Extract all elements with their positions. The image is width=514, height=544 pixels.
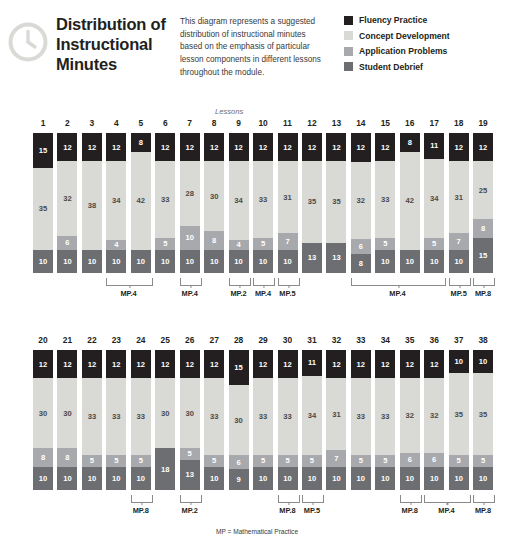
lesson-bar[interactable]: 584210 xyxy=(131,118,151,273)
bar-segment-debrief: 8 xyxy=(351,254,371,273)
bar-stack: 1230810 xyxy=(33,350,53,490)
bar-segment-application: 5 xyxy=(155,238,175,250)
lesson-number: 16 xyxy=(400,118,420,128)
lesson-bar[interactable]: 311134510 xyxy=(302,335,322,490)
lessons-caption: Lessons xyxy=(215,107,243,116)
lesson-bar[interactable]: 13123513 xyxy=(326,118,346,273)
bar-segment-fluency: 15 xyxy=(33,133,53,168)
bar-segment-fluency: 12 xyxy=(375,350,395,378)
bar-segment-fluency: 12 xyxy=(204,350,224,378)
bar-segment-debrief: 18 xyxy=(155,448,175,490)
bar-segment-concept: 33 xyxy=(375,378,395,455)
bar-stack: 84210 xyxy=(400,133,420,273)
bar-segment-concept: 30 xyxy=(180,378,200,448)
lesson-bar[interactable]: 1153510 xyxy=(33,118,53,273)
footnote: MP = Mathematical Practice xyxy=(0,528,514,535)
lesson-bar[interactable]: 12123513 xyxy=(302,118,322,273)
lesson-number: 21 xyxy=(57,335,77,345)
bar-segment-application: 5 xyxy=(351,455,371,467)
lesson-bar[interactable]: 191225815 xyxy=(473,118,493,273)
lesson-bar[interactable]: 61233510 xyxy=(155,118,175,273)
bar-segment-concept: 31 xyxy=(326,378,346,450)
lesson-bar[interactable]: 712281010 xyxy=(180,118,200,273)
lesson-bar[interactable]: 14123268 xyxy=(351,118,371,273)
mp-bracket-tick xyxy=(129,285,130,288)
lesson-bar[interactable]: 381035510 xyxy=(473,335,493,490)
bar-stack: 1134510 xyxy=(302,350,322,490)
legend-item-application: Application Problems xyxy=(344,45,514,57)
lesson-bar[interactable]: 21232610 xyxy=(57,118,77,273)
bar-segment-fluency: 12 xyxy=(278,350,298,378)
lesson-bar[interactable]: 361232610 xyxy=(424,335,444,490)
bar-segment-fluency: 8 xyxy=(131,133,151,152)
lesson-bar[interactable]: 261230513 xyxy=(180,335,200,490)
bar-segment-fluency: 12 xyxy=(106,133,126,161)
lesson-bar[interactable]: 101233510 xyxy=(253,118,273,273)
lesson-bar[interactable]: 151233510 xyxy=(375,118,395,273)
lesson-bar[interactable]: 291233510 xyxy=(253,335,273,490)
lesson-bar[interactable]: 41234410 xyxy=(106,118,126,273)
lesson-bar[interactable]: 81230810 xyxy=(204,118,224,273)
mp-bracket-tick xyxy=(288,502,289,505)
lesson-bar[interactable]: 91234410 xyxy=(229,118,249,273)
lesson-number: 34 xyxy=(375,335,395,345)
bar-stack: 1230513 xyxy=(180,350,200,490)
bar-stack: 123513 xyxy=(302,133,322,273)
bar-segment-concept: 34 xyxy=(302,376,322,455)
bar-stack: 1234410 xyxy=(229,133,249,273)
lesson-bar[interactable]: 28153069 xyxy=(229,335,249,490)
lesson-bar[interactable]: 201230810 xyxy=(33,335,53,490)
bar-stack: 1134510 xyxy=(424,133,444,273)
mp-bracket xyxy=(473,495,495,503)
lesson-number: 38 xyxy=(473,335,493,345)
bar-segment-application: 6 xyxy=(57,236,77,250)
bar-segment-debrief: 10 xyxy=(424,250,444,273)
bar-stack: 1233510 xyxy=(155,133,175,273)
bar-segment-application: 5 xyxy=(253,238,273,250)
lesson-bar[interactable]: 221233510 xyxy=(82,335,102,490)
bar-segment-fluency: 15 xyxy=(229,350,249,385)
lesson-bar[interactable]: 301233510 xyxy=(278,335,298,490)
lesson-bar[interactable]: 111231710 xyxy=(278,118,298,273)
mp-bracket-tick xyxy=(410,502,411,505)
lesson-number: 36 xyxy=(424,335,444,345)
lesson-bar[interactable]: 371035510 xyxy=(449,335,469,490)
bar-segment-concept: 33 xyxy=(351,378,371,455)
bar-stack: 1233510 xyxy=(253,350,273,490)
lesson-bar[interactable]: 351232610 xyxy=(400,335,420,490)
bar-segment-fluency: 12 xyxy=(375,133,395,161)
bar-segment-concept: 42 xyxy=(400,152,420,250)
lesson-bar[interactable]: 25123018 xyxy=(155,335,175,490)
bar-segment-concept: 35 xyxy=(302,161,322,243)
lesson-bar[interactable]: 331233510 xyxy=(351,335,371,490)
bar-segment-application: 8 xyxy=(57,448,77,467)
lesson-bar[interactable]: 231233510 xyxy=(106,335,126,490)
mp-bracket-tick xyxy=(484,502,485,505)
bar-segment-debrief: 10 xyxy=(326,467,346,490)
bar-segment-debrief: 10 xyxy=(449,467,469,490)
lesson-bar[interactable]: 1684210 xyxy=(400,118,420,273)
bar-segment-concept: 32 xyxy=(424,378,444,453)
mp-bracket-tick xyxy=(190,285,191,288)
bar-segment-concept: 42 xyxy=(131,152,151,250)
mp-bracket-tick xyxy=(312,502,313,505)
bar-segment-debrief: 10 xyxy=(424,467,444,490)
lesson-bar[interactable]: 241233510 xyxy=(131,335,151,490)
lesson-bar[interactable]: 181231710 xyxy=(449,118,469,273)
lesson-bar[interactable]: 271233510 xyxy=(204,335,224,490)
bar-segment-concept: 33 xyxy=(375,161,395,238)
lesson-bar[interactable]: 3123810 xyxy=(82,118,102,273)
lesson-bar[interactable]: 171134510 xyxy=(424,118,444,273)
lesson-number: 27 xyxy=(204,335,224,345)
bar-stack: 1233510 xyxy=(375,133,395,273)
lesson-number: 28 xyxy=(229,335,249,345)
lesson-bar[interactable]: 211230810 xyxy=(57,335,77,490)
lesson-bar[interactable]: 321231710 xyxy=(326,335,346,490)
lesson-number: 6 xyxy=(155,118,175,128)
lesson-bar[interactable]: 341233510 xyxy=(375,335,395,490)
mp-label: MP.8 xyxy=(461,506,505,515)
bar-segment-fluency: 12 xyxy=(155,350,175,378)
bar-segment-concept: 30 xyxy=(57,378,77,448)
bar-stack: 153069 xyxy=(229,350,249,490)
bar-stack: 1233510 xyxy=(278,350,298,490)
